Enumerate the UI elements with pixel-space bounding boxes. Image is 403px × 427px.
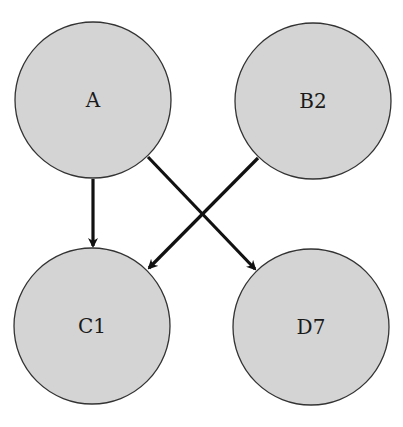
node-c1-label: C1	[78, 314, 106, 338]
node-a-label: A	[85, 88, 101, 112]
node-d7-label: D7	[297, 315, 326, 339]
node-d7: D7	[233, 249, 389, 405]
graph-diagram: A B2 C1 D7	[0, 0, 403, 427]
node-b2-label: B2	[299, 89, 326, 113]
node-a: A	[15, 22, 171, 178]
node-b2: B2	[235, 23, 391, 179]
node-c1: C1	[14, 248, 170, 404]
